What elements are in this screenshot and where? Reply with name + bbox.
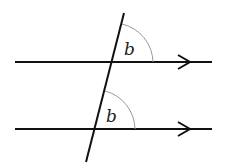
angle-label-top: b — [124, 39, 135, 59]
parallel-lines-diagram: b b — [0, 0, 231, 165]
transversal-line — [86, 13, 124, 162]
angle-label-bottom: b — [106, 106, 117, 126]
